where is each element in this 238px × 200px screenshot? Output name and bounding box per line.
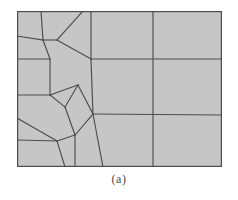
mesh-figure [17, 11, 222, 167]
mesh-diagram-svg [17, 11, 222, 167]
mesh-background [17, 11, 222, 167]
figure-caption: (a) [0, 172, 238, 187]
figure-container: (a) [0, 0, 238, 200]
